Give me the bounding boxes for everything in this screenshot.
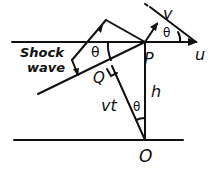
velocity-v-label: v xyxy=(163,6,172,22)
point-q-label: Q xyxy=(93,71,105,86)
distance-h-label: h xyxy=(151,84,161,100)
theta-arc-left xyxy=(108,42,111,60)
theta-left-label: θ xyxy=(91,45,100,59)
shock-wave-direction-line xyxy=(72,20,106,60)
velocity-u-label: u xyxy=(195,47,205,63)
point-p-label: P xyxy=(144,51,154,67)
theta-top-right-label: θ xyxy=(163,27,170,39)
shock-wave-diagram xyxy=(0,0,217,175)
v-arrowhead-icon xyxy=(150,22,158,31)
point-o-label: O xyxy=(139,148,152,165)
line-p-upper xyxy=(106,20,145,42)
shock-wave-label-line1: Shock xyxy=(20,46,64,59)
theta-bottom-label: θ xyxy=(133,101,140,113)
distance-vt-label: vt xyxy=(101,98,117,114)
theta-arc-top-right xyxy=(178,32,180,42)
shock-wave-label-line2: wave xyxy=(27,61,65,74)
theta-arc-bottom xyxy=(136,118,145,120)
